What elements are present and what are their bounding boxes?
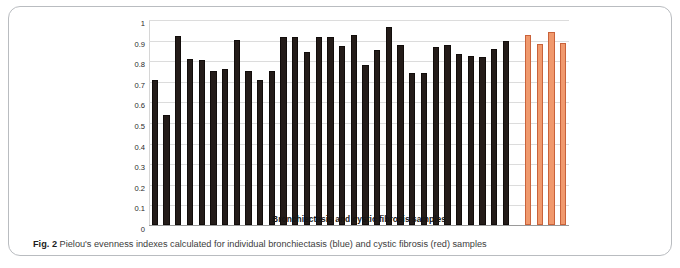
- bar-group-gap: [512, 20, 523, 225]
- plot-area: [149, 20, 569, 226]
- y-axis-tick-label: 0.8: [121, 61, 145, 69]
- y-axis-tick-label: 1: [121, 20, 145, 28]
- bar: [525, 35, 531, 225]
- figure-card: Pielou's evenness index 10.90.80.70.60.5…: [8, 6, 672, 256]
- bar: [316, 37, 322, 225]
- bar: [433, 47, 439, 225]
- bar: [491, 49, 497, 225]
- bar: [374, 50, 380, 225]
- bar-slot: [395, 20, 407, 225]
- bar: [280, 37, 286, 225]
- bar: [421, 73, 427, 225]
- y-axis-tick-label: 0.4: [121, 144, 145, 152]
- bar-slot: [418, 20, 430, 225]
- y-axis-tick-label: 0.5: [121, 123, 145, 131]
- bar: [503, 41, 509, 225]
- y-axis-tick-label: 0.1: [121, 205, 145, 213]
- figure-caption: Fig. 2 Pielou's evenness indexes calcula…: [9, 239, 487, 249]
- bar: [339, 46, 345, 225]
- bar-slot: [336, 20, 348, 225]
- bar-slot: [465, 20, 477, 225]
- bar-slot: [196, 20, 208, 225]
- bar-slot: [325, 20, 337, 225]
- bar: [548, 32, 554, 225]
- bar: [234, 40, 240, 225]
- bar-slot: [243, 20, 255, 225]
- bar: [362, 65, 368, 225]
- bar: [292, 37, 298, 225]
- bar: [187, 59, 193, 225]
- bar-slot: [301, 20, 313, 225]
- bar-slot: [348, 20, 360, 225]
- bar-slot: [254, 20, 266, 225]
- y-axis-tick-label: 0.7: [121, 82, 145, 90]
- bar-slot: [442, 20, 454, 225]
- bar: [304, 52, 310, 225]
- bar-slot: [289, 20, 301, 225]
- bar-slot: [313, 20, 325, 225]
- bar: [210, 71, 216, 225]
- y-axis-tick-label: 0.2: [121, 185, 145, 193]
- bar: [409, 73, 415, 225]
- bar: [456, 54, 462, 225]
- bar: [222, 69, 228, 225]
- y-axis-tick-label: 0.6: [121, 102, 145, 110]
- bar-slot: [266, 20, 278, 225]
- bars-layer: [149, 20, 569, 225]
- axis-baseline: [149, 225, 569, 226]
- bar-slot: [184, 20, 196, 225]
- bar-slot: [500, 20, 512, 225]
- bar-slot: [371, 20, 383, 225]
- figure-caption-text: Pielou's evenness indexes calculated for…: [60, 239, 487, 249]
- bar-slot: [477, 20, 489, 225]
- bar-slot: [278, 20, 290, 225]
- figure-label: Fig. 2: [33, 239, 57, 249]
- bar-slot: [430, 20, 442, 225]
- bar: [560, 43, 566, 225]
- x-axis-title: Bronchiectasis and cystic fibrosis sampl…: [149, 214, 569, 224]
- bar: [269, 71, 275, 226]
- bar: [152, 80, 158, 225]
- bar-slot: [172, 20, 184, 225]
- bar: [257, 80, 263, 225]
- bar: [444, 45, 450, 225]
- bar: [327, 37, 333, 225]
- y-axis-tick-label: 0.9: [121, 41, 145, 49]
- bar-slot: [557, 20, 569, 225]
- bar: [537, 44, 543, 225]
- bar: [163, 115, 169, 225]
- y-axis-tick-labels: 10.90.80.70.60.50.40.30.20.10: [121, 16, 145, 224]
- bar-slot: [219, 20, 231, 225]
- bar: [175, 36, 181, 225]
- chart-region: Pielou's evenness index 10.90.80.70.60.5…: [9, 7, 671, 229]
- y-axis-title: Pielou's evenness index: [105, 0, 119, 33]
- bar: [468, 56, 474, 225]
- bar-slot: [522, 20, 534, 225]
- bar-slot: [231, 20, 243, 225]
- bar: [386, 27, 392, 225]
- bar-slot: [161, 20, 173, 225]
- bar: [397, 45, 403, 225]
- bar: [351, 35, 357, 225]
- y-axis-tick-label: 0.3: [121, 164, 145, 172]
- bar: [245, 71, 251, 225]
- bar-slot: [149, 20, 161, 225]
- caption-row: Fig. 2 Pielou's evenness indexes calcula…: [9, 233, 673, 255]
- bar: [479, 57, 485, 226]
- bar-slot: [453, 20, 465, 225]
- bar-slot: [534, 20, 546, 225]
- bar-slot: [360, 20, 372, 225]
- bar-slot: [383, 20, 395, 225]
- bar-slot: [546, 20, 558, 225]
- bar-slot: [488, 20, 500, 225]
- bar-slot: [406, 20, 418, 225]
- bar-slot: [208, 20, 220, 225]
- bar: [199, 60, 205, 225]
